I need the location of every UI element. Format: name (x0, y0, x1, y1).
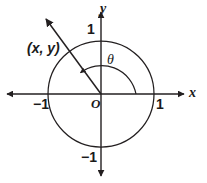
y-axis-label: y (100, 2, 106, 16)
tick-label-x-positive-one: 1 (156, 97, 164, 111)
theta-arc-path (81, 66, 137, 94)
tick-label-y-positive-one: 1 (87, 22, 95, 36)
origin-label: O (91, 97, 100, 110)
tick-label-x-negative-one: −1 (33, 97, 49, 111)
tick-label-y-negative-one: −1 (81, 150, 97, 164)
x-axis-label: x (189, 86, 196, 100)
unit-circle-canvas (0, 0, 207, 183)
point-coordinates-label: (x, y) (27, 41, 60, 55)
unit-circle-figure: y x 1 −1 −1 1 O θ (x, y) (0, 0, 207, 183)
theta-angle-label: θ (107, 53, 114, 67)
